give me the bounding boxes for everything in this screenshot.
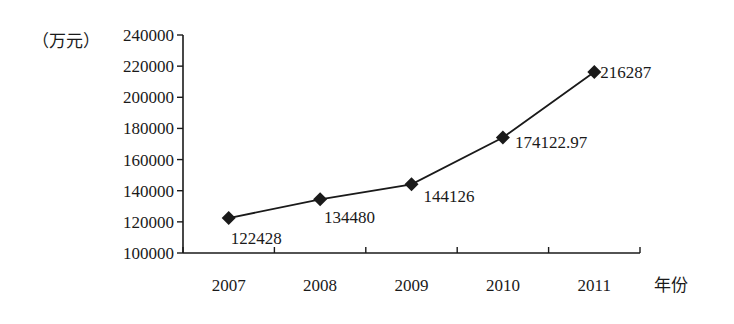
x-tick-label: 2008 <box>303 276 337 295</box>
y-tick-label: 180000 <box>123 119 174 138</box>
diamond-marker-icon <box>405 177 419 191</box>
data-label: 144126 <box>424 187 475 206</box>
x-tick-label: 2009 <box>395 276 429 295</box>
data-label: 134480 <box>324 208 375 227</box>
x-tick-label: 2007 <box>212 276 247 295</box>
diamond-marker-icon <box>587 65 601 79</box>
x-tick-label: 2011 <box>578 276 611 295</box>
x-axis-ticks: 20072008200920102011 <box>183 247 640 295</box>
diamond-marker-icon <box>313 192 327 206</box>
data-label: 122428 <box>231 229 282 248</box>
y-tick-label: 140000 <box>123 182 174 201</box>
y-tick-label: 120000 <box>123 213 174 232</box>
y-axis-ticks: 1000001200001400001600001800002000002200… <box>123 26 183 263</box>
line-chart: 1000001200001400001600001800002000002200… <box>0 0 734 324</box>
y-axis-unit-label: （万元） <box>32 31 100 51</box>
x-axis-unit-label: 年份 <box>654 275 688 295</box>
data-label: 174122.97 <box>515 133 588 152</box>
diamond-marker-icon <box>496 131 510 145</box>
data-label: 216287 <box>600 63 652 82</box>
diamond-marker-icon <box>222 211 236 225</box>
y-tick-label: 220000 <box>123 57 174 76</box>
y-tick-label: 100000 <box>123 244 174 263</box>
y-tick-label: 200000 <box>123 88 174 107</box>
y-tick-label: 160000 <box>123 151 174 170</box>
y-tick-label: 240000 <box>123 26 174 45</box>
x-tick-label: 2010 <box>486 276 520 295</box>
data-labels: 122428134480144126174122.97216287 <box>231 63 652 248</box>
